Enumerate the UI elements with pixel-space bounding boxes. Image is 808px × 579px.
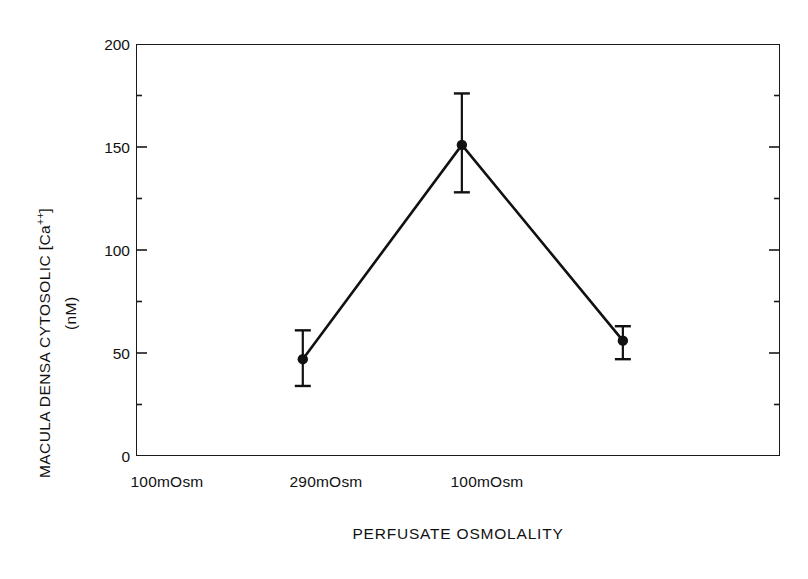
y-tick-label: 0 <box>86 449 130 465</box>
y-tick-label: 200 <box>86 37 130 53</box>
data-point-marker <box>457 140 467 150</box>
data-point-marker <box>618 335 628 345</box>
y-axis-title-main: MACULA DENSA CYTOSOLIC [Ca++] <box>34 208 54 478</box>
x-tick-label: 100mOsm <box>417 473 557 491</box>
x-axis-title: PERFUSATE OSMOLALITY <box>136 525 780 543</box>
y-axis-title: MACULA DENSA CYTOSOLIC [Ca++] (nM) <box>0 0 92 500</box>
chart-figure: MACULA DENSA CYTOSOLIC [Ca++] (nM) 200 1… <box>0 0 808 579</box>
y-tick-label: 100 <box>86 243 130 259</box>
y-tick-label: 150 <box>86 140 130 156</box>
x-tick-label: 100mOsm <box>97 473 237 491</box>
data-point-marker <box>298 354 308 364</box>
y-tick-label: 50 <box>86 346 130 362</box>
y-axis-title-superscript: ++ <box>34 213 46 225</box>
y-axis-tick-labels: 200 150 100 50 0 <box>86 0 130 500</box>
x-tick-label: 290mOsm <box>256 473 396 491</box>
y-axis-title-text: MACULA DENSA CYTOSOLIC [Ca <box>36 225 53 478</box>
y-axis-title-units: (nM) <box>62 297 80 330</box>
plot-area <box>136 44 780 456</box>
y-axis-title-bracket: ] <box>36 208 53 213</box>
